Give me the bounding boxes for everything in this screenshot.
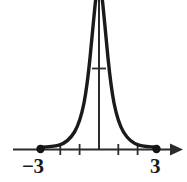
x-axis-label-minus-three: −3 xyxy=(22,156,43,177)
x-axis-arrow-icon xyxy=(170,144,183,156)
x-axis-label-three: 3 xyxy=(150,156,160,177)
endpoint-dot-left xyxy=(36,145,44,153)
endpoint-dot-right xyxy=(152,145,160,153)
graph-figure: −3 3 xyxy=(0,0,187,182)
